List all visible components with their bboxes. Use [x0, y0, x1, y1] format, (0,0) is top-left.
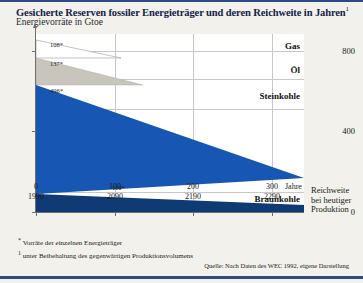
series-wedge-gas: [36, 40, 121, 58]
series-wedge-steinkohle: [36, 85, 304, 194]
footnote-2: 1 unter Beibehaltung des gegenwärtigen P…: [18, 249, 193, 262]
bottom-rule: [0, 276, 363, 279]
footnotes: * Vorräte der einzelnen Energieträger 1 …: [18, 236, 193, 262]
y-axis-arrow-icon: [33, 23, 37, 28]
x-axis-value-100: 100: [109, 182, 121, 191]
y-axis-tick: [32, 51, 36, 52]
footnote-2-marker: 1: [18, 250, 21, 256]
series-label-oel: Öl: [290, 65, 300, 75]
data-label-oel-value: 137*: [50, 60, 63, 67]
top-rule: [0, 0, 363, 2]
x-axis-value-300: 300: [266, 182, 278, 191]
reach-annotation: Reichweite bei heutiger Produktion: [311, 186, 351, 215]
data-label-steinkohle-value: 496*: [50, 87, 63, 94]
chart-title-footnote-marker: 1: [346, 5, 349, 13]
y-axis-label-400: 400: [319, 126, 355, 136]
x-axis-tick: [193, 212, 194, 216]
series-label-gas: Gas: [285, 41, 300, 51]
chart-subtitle: Energievorräte in Gtoe: [16, 17, 103, 27]
data-label-oel: 137*: [50, 60, 63, 67]
y-axis-label-800: 800: [319, 46, 355, 56]
footnote-1: * Vorräte der einzelnen Energieträger: [18, 236, 193, 249]
x-axis-year-200: 2190: [185, 192, 201, 202]
x-axis-value-0: 0: [34, 182, 38, 191]
series-label-steinkohle: Steinkohle: [259, 91, 300, 101]
x-axis-tick: [115, 212, 116, 216]
x-axis-tick: [36, 212, 37, 216]
footnote-1-marker: *: [18, 237, 21, 243]
x-axis-line: [36, 212, 304, 213]
x-axis-value-200: 200: [187, 182, 199, 191]
y-axis-tick: [32, 131, 36, 132]
footnote-2-text: unter Beibehaltung des gegenwärtigen Pro…: [23, 252, 193, 260]
x-axis-unit-label: Jahre: [285, 182, 302, 191]
x-axis-tick: [272, 212, 273, 216]
x-axis-year-300: 2290: [264, 192, 280, 202]
x-axis-label-300: 300 2290: [264, 182, 280, 202]
data-label-gas-value: 108*: [50, 41, 63, 48]
data-label-gas: 108*: [50, 41, 63, 48]
x-axis-label-200: 200 2190: [185, 182, 201, 202]
chart-title-text: Gesicherte Reserven fossiler Energieträg…: [16, 7, 346, 18]
chart-figure: Gesicherte Reserven fossiler Energieträg…: [0, 0, 363, 283]
chart-title: Gesicherte Reserven fossiler Energieträg…: [16, 5, 356, 18]
x-axis-label-0: 0 1990: [28, 182, 44, 202]
x-axis-year-0: 1990: [28, 192, 44, 202]
data-label-steinkohle: 496*: [50, 87, 63, 94]
reach-annotation-line3: Produktion: [311, 205, 351, 215]
source-note: Quelle: Nach Daten des WEC 1992, eigene …: [204, 262, 349, 269]
x-axis-year-100: 2090: [107, 192, 123, 202]
footnote-1-text: Vorräte der einzelnen Energieträger: [23, 239, 122, 247]
x-axis-label-100: 100 2090: [107, 182, 123, 202]
